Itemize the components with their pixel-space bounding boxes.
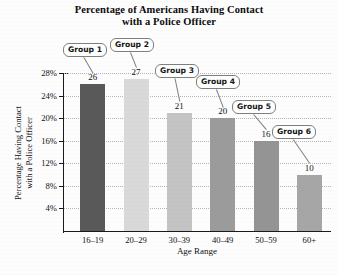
- callout-g5: Group 5: [232, 100, 276, 114]
- x-axis-line: [63, 231, 331, 232]
- chart-title-line-2: with a Police Officer: [0, 16, 338, 28]
- y-tick-8: [59, 186, 63, 187]
- y-axis-label-line-1: Percentage Having Contact: [13, 105, 24, 199]
- y-tick-16: [59, 141, 63, 142]
- bar: 2720–29: [124, 79, 149, 231]
- y-tick-label-24: 24%: [41, 91, 57, 101]
- bar-value-label: 20: [218, 106, 227, 116]
- y-axis-label-line-2: with a Police Officer: [23, 105, 34, 199]
- callout-g1: Group 1: [63, 43, 107, 57]
- bar-value-label: 26: [88, 72, 97, 82]
- bar-value-label: 27: [132, 67, 141, 77]
- y-tick-label-12: 12%: [41, 158, 57, 168]
- y-tick-28: [59, 73, 63, 74]
- callout-tail-g2: [129, 50, 137, 68]
- x-axis-label: Age Range: [63, 246, 331, 256]
- y-tick-label-8: 8%: [46, 181, 57, 191]
- chart-title-line-1: Percentage of Americans Having Contact: [0, 4, 338, 16]
- x-tick-label: 50–59: [255, 235, 276, 245]
- bar-value-label: 10: [305, 163, 314, 173]
- callout-g6: Group 6: [272, 125, 316, 139]
- x-tick-label: 40–49: [212, 235, 233, 245]
- chart-title: Percentage of Americans Having Contact w…: [0, 4, 338, 28]
- y-tick-24: [59, 96, 63, 97]
- source-note: [10, 271, 220, 275]
- chart-figure: Percentage of Americans Having Contact w…: [0, 0, 338, 275]
- x-tick-label: 60+: [303, 235, 316, 245]
- y-tick-label-20: 20%: [41, 113, 57, 123]
- bar: 1060+: [297, 175, 322, 231]
- bar: 2616–19: [80, 84, 105, 231]
- callout-g3: Group 3: [155, 64, 199, 78]
- bar-value-label: 16: [262, 129, 271, 139]
- bar: 1650–59: [254, 141, 279, 231]
- y-tick-label-4: 4%: [46, 203, 57, 213]
- y-tick-label-16: 16%: [41, 136, 57, 146]
- y-tick-20: [59, 118, 63, 119]
- y-tick-12: [59, 163, 63, 164]
- bar: 2040–49: [210, 118, 235, 231]
- bar: 2130–39: [167, 113, 192, 232]
- callout-g2: Group 2: [110, 38, 154, 52]
- bar-value-label: 21: [175, 101, 184, 111]
- y-tick-4: [59, 208, 63, 209]
- callout-tail-g1: [82, 55, 94, 74]
- x-tick-label: 16–19: [82, 235, 103, 245]
- y-axis-label: Percentage Having Contact with a Police …: [8, 73, 38, 232]
- plot-area: 4%8%12%16%20%24%28% 2616–192720–292130–3…: [63, 73, 331, 232]
- callout-g4: Group 4: [196, 75, 240, 89]
- y-tick-label-28: 28%: [41, 68, 57, 78]
- x-tick-label: 20–29: [125, 235, 146, 245]
- x-tick-label: 30–39: [169, 235, 190, 245]
